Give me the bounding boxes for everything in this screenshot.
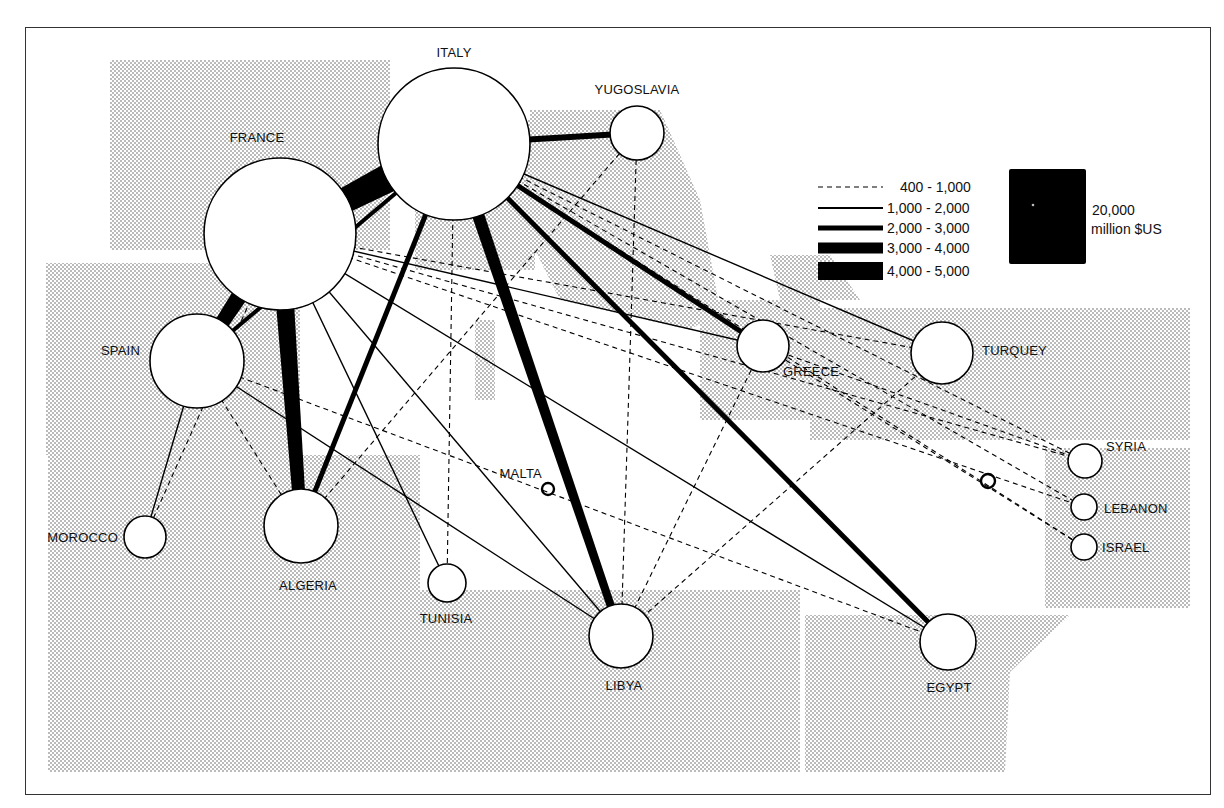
node-france xyxy=(204,158,356,310)
node-egypt xyxy=(920,614,976,670)
node-israel xyxy=(1071,534,1097,560)
label-egypt: EGYPT xyxy=(926,680,971,695)
label-malta: MALTA xyxy=(500,466,543,481)
legend-label-3: 3,000 - 4,000 xyxy=(887,240,970,256)
label-israel: ISRAEL xyxy=(1102,540,1149,555)
land-area xyxy=(48,455,420,772)
label-libya: LIBYA xyxy=(606,678,643,693)
node-italy xyxy=(378,68,530,220)
legend-label-0: 400 - 1,000 xyxy=(900,179,971,195)
label-italy: ITALY xyxy=(436,45,471,60)
label-turquey: TURQUEY xyxy=(982,343,1047,358)
flow-map: ITALYFRANCEYUGOSLAVIASPAINGREECETURQUEYS… xyxy=(0,0,1224,808)
node-greece xyxy=(737,320,789,372)
label-yugoslavia: YUGOSLAVIA xyxy=(595,82,680,97)
label-algeria: ALGERIA xyxy=(279,578,337,593)
node-libya xyxy=(589,604,653,668)
node-spain xyxy=(150,314,244,408)
scale-value: 20,000 xyxy=(1092,202,1135,218)
legend: 400 - 1,0001,000 - 2,0002,000 - 3,0003,0… xyxy=(818,169,1162,279)
land-area xyxy=(1045,448,1190,608)
node-morocco xyxy=(124,516,166,558)
node-tunisia xyxy=(428,564,466,602)
node-malta xyxy=(542,483,554,495)
legend-label-4: 4,000 - 5,000 xyxy=(887,263,970,279)
label-spain: SPAIN xyxy=(101,343,140,358)
node-yugoslavia xyxy=(610,106,664,160)
label-syria: SYRIA xyxy=(1106,439,1146,454)
node-algeria xyxy=(264,489,338,563)
label-tunisia: TUNISIA xyxy=(420,611,473,626)
node-turquey xyxy=(911,322,973,384)
scale-square xyxy=(1009,169,1086,264)
label-lebanon: LEBANON xyxy=(1104,501,1168,516)
legend-label-2: 2,000 - 3,000 xyxy=(887,220,970,236)
legend-label-1: 1,000 - 2,000 xyxy=(887,200,970,216)
label-france: FRANCE xyxy=(230,130,285,145)
label-greece: GREECE xyxy=(783,364,839,379)
label-morocco: MOROCCO xyxy=(47,530,118,545)
scale-unit: million $US xyxy=(1091,221,1162,237)
scale-dot xyxy=(1032,204,1035,207)
node-syria xyxy=(1068,444,1102,478)
land-area xyxy=(810,308,1190,440)
node-lebanon xyxy=(1071,494,1097,520)
